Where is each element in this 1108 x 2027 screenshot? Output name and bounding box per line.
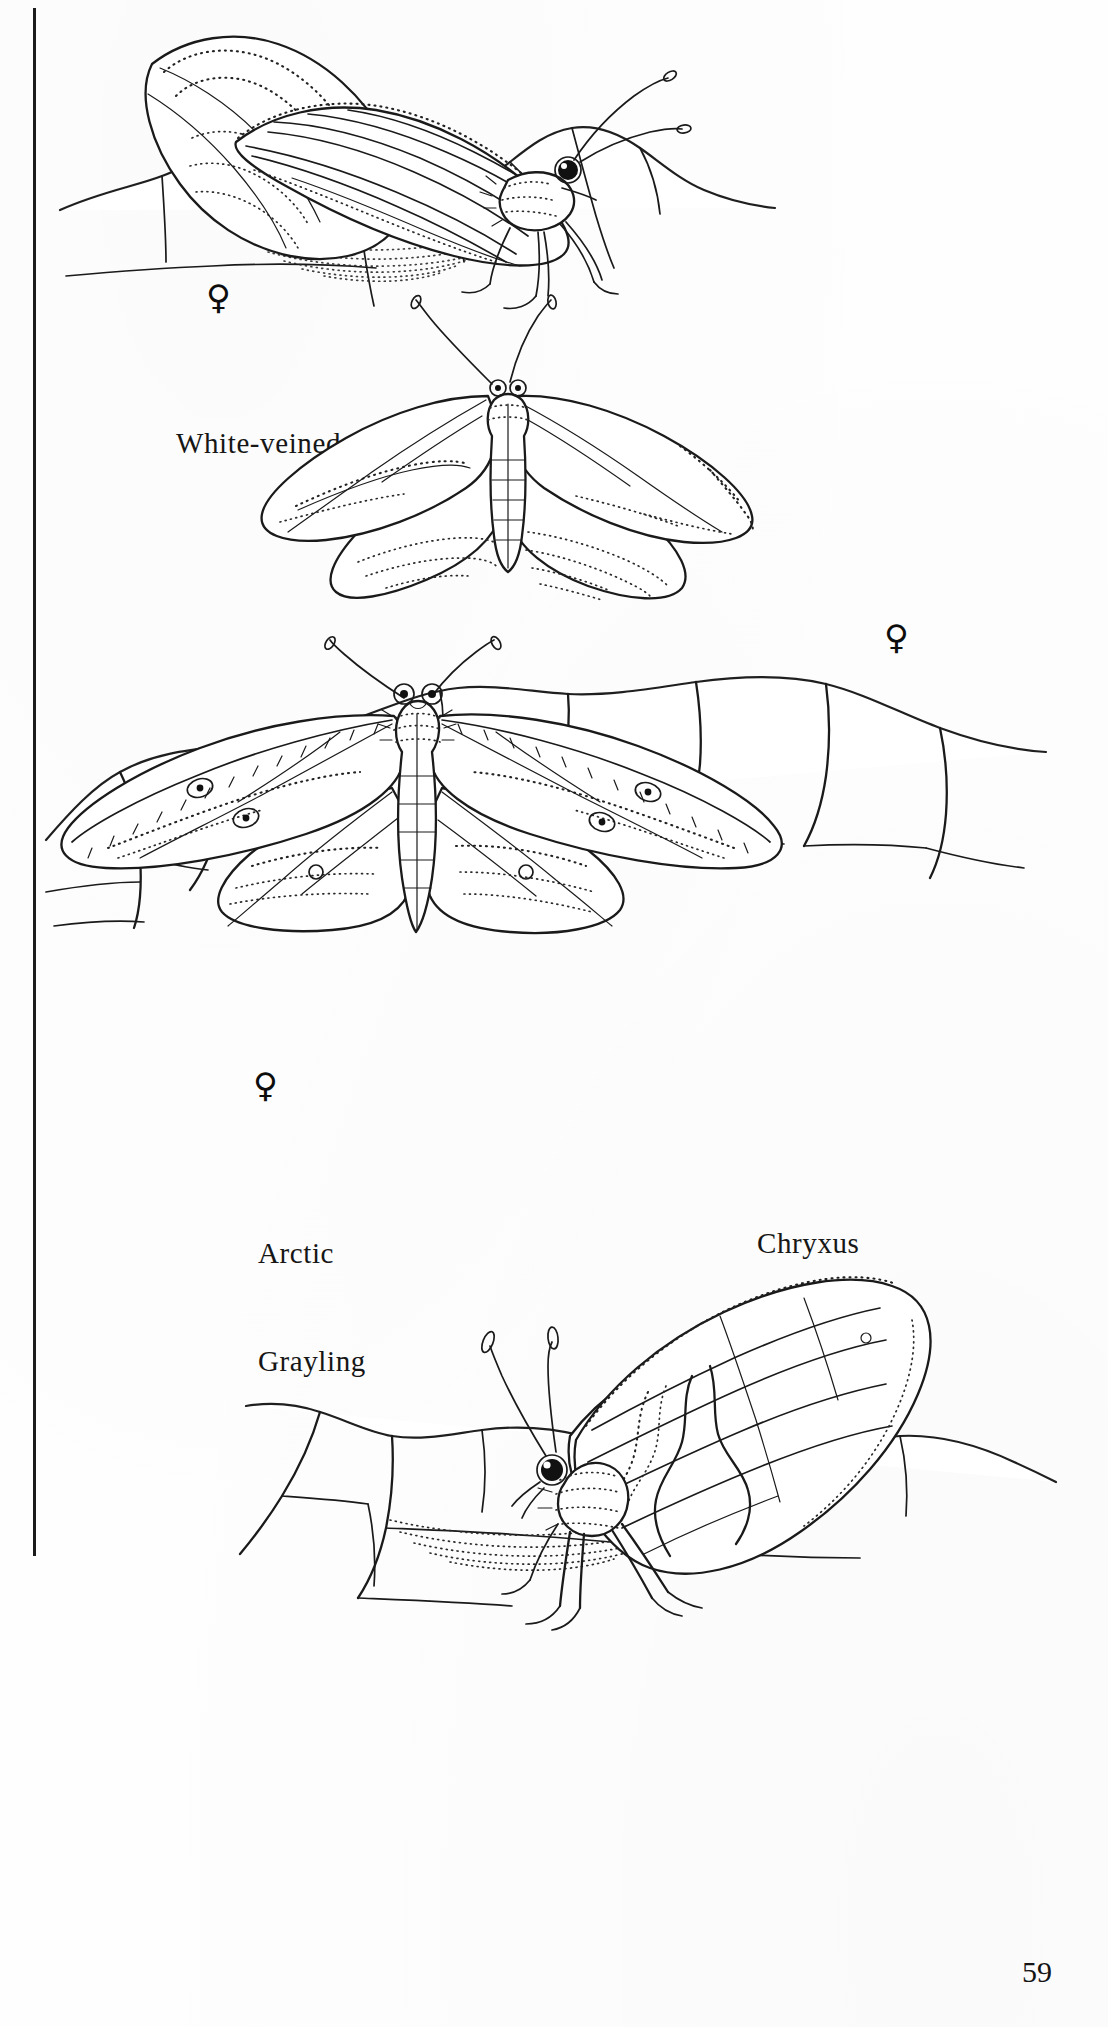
female-symbol-plate-1: ♀ [206, 280, 231, 314]
illustration-white-veined-arctic-dorsal [240, 300, 860, 630]
guide-page: White-veined Arctic ♀ [0, 0, 1108, 2027]
illustration-white-veined-arctic-ventral [40, 10, 780, 330]
label-grayling-line-2: Grayling [258, 1343, 366, 1379]
antennae [409, 294, 557, 384]
illustration-chryxus-arctic [40, 640, 1050, 970]
left-margin-rule [33, 8, 36, 1556]
compound-eye [558, 160, 578, 180]
page-number: 59 [1022, 1955, 1052, 1989]
label-arctic-grayling: Arctic Grayling [258, 1162, 366, 1452]
compound-eye [541, 1459, 563, 1481]
antennae [479, 1327, 559, 1456]
label-grayling-line-1: Arctic [258, 1235, 366, 1271]
female-symbol-plate-3: ♀ [253, 1068, 278, 1102]
label-chryxus-line-1: Chryxus [757, 1225, 860, 1261]
